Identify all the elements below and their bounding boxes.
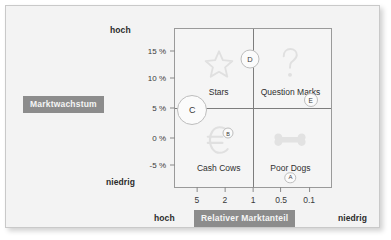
- y-axis-low-label: niedrig: [106, 177, 135, 187]
- y-tick-15: 15 %: [148, 47, 175, 56]
- question-mark-icon: [279, 47, 301, 81]
- bone-icon: [273, 131, 307, 148]
- y-tick-mark: [170, 164, 175, 165]
- x-tick-label: 0.1: [303, 192, 315, 205]
- y-axis-title: Marktwachstum: [23, 96, 104, 113]
- x-tick-label: 2: [223, 192, 228, 205]
- x-tick-05: 0.5: [275, 187, 287, 205]
- figure-panel: hoch niedrig hoch niedrig Marktwachstum …: [5, 5, 380, 228]
- data-point-c[interactable]: C: [177, 95, 207, 125]
- data-point-b[interactable]: B: [223, 128, 234, 139]
- y-tick-label: 0 %: [152, 134, 170, 143]
- y-tick-mark: [170, 138, 175, 139]
- quadrant-label-stars: Stars: [209, 87, 229, 97]
- plot-area: 15 % 10 % 5 % 0 % -5 % 5 2 1 0.5 0.1: [174, 28, 332, 188]
- y-axis-high-label: hoch: [110, 25, 131, 35]
- y-tick-10: 10 %: [148, 73, 175, 82]
- y-tick-5: 5 %: [152, 104, 175, 113]
- y-tick-label: -5 %: [150, 160, 170, 169]
- y-tick-0: 0 %: [152, 134, 175, 143]
- y-tick-mark: [170, 51, 175, 52]
- star-icon: [202, 48, 236, 80]
- x-axis-low-label: niedrig: [338, 213, 367, 223]
- x-tick-2: 2: [223, 187, 228, 205]
- quadrant-label-cash-cows: Cash Cows: [197, 163, 240, 173]
- y-tick-mark: [170, 77, 175, 78]
- data-point-d[interactable]: D: [240, 50, 259, 69]
- y-tick-label: 10 %: [148, 73, 170, 82]
- y-tick-label: 15 %: [148, 47, 170, 56]
- data-point-a[interactable]: A: [285, 172, 297, 184]
- x-axis-high-label: hoch: [154, 213, 175, 223]
- y-tick-neg5: -5 %: [150, 160, 175, 169]
- x-tick-label: 0.5: [275, 192, 287, 205]
- x-tick-label: 1: [251, 192, 256, 205]
- x-tick-1: 1: [251, 187, 256, 205]
- bcg-matrix-page: hoch niedrig hoch niedrig Marktwachstum …: [0, 0, 391, 240]
- y-tick-label: 5 %: [152, 104, 170, 113]
- y-tick-mark: [170, 108, 175, 109]
- x-tick-label: 5: [194, 192, 199, 205]
- x-axis-title: Relativer Marktanteil: [194, 210, 295, 227]
- x-tick-01: 0.1: [303, 187, 315, 205]
- data-point-e[interactable]: E: [304, 93, 318, 107]
- x-tick-5: 5: [194, 187, 199, 205]
